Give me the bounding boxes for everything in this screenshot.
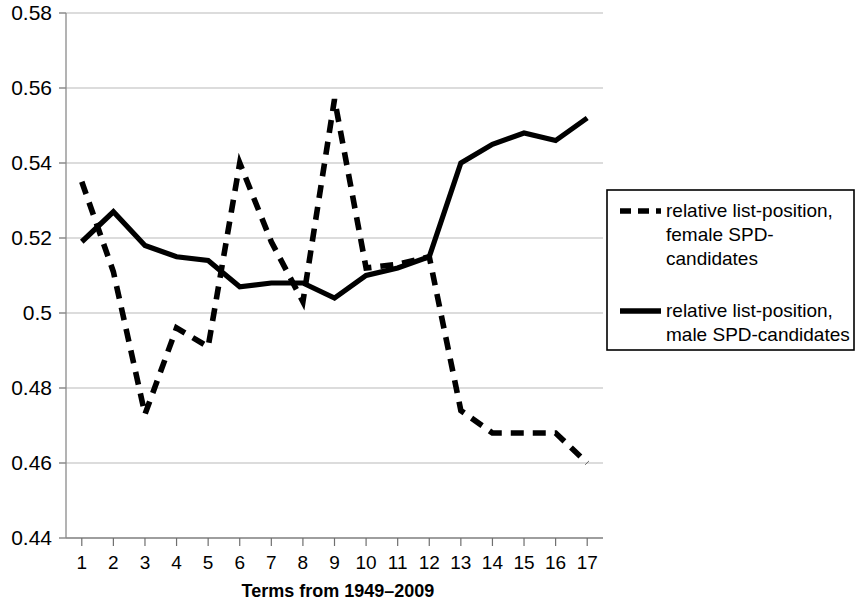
y-axis-tick-label: 0.52 (11, 226, 52, 249)
tickmarks-group (59, 13, 587, 546)
x-axis-tick-label: 6 (234, 552, 245, 573)
legend-label-female-line2: female SPD- (666, 224, 774, 245)
y-axis-tick-label: 0.5 (23, 301, 52, 324)
x-axis-tick-label: 12 (419, 552, 440, 573)
x-axis-tick-label: 2 (108, 552, 119, 573)
y-axis-tick-label: 0.54 (11, 151, 52, 174)
x-axis-tick-label: 7 (266, 552, 277, 573)
x-axis-tick-label: 11 (388, 552, 408, 573)
x-axis-tick-label: 14 (482, 552, 504, 573)
y-axis-tick-label: 0.58 (11, 1, 52, 24)
series-line-female-spd-candidates (82, 99, 587, 463)
chart-container: 0.580.560.540.520.50.480.460.44 12345678… (0, 0, 855, 607)
x-axis-tick-label: 4 (171, 552, 182, 573)
legend: relative list-position, female SPD- cand… (607, 190, 854, 350)
x-axis-tick-label: 16 (545, 552, 566, 573)
legend-label-male-line2: male SPD-candidates (666, 324, 850, 345)
x-axis-tick-label: 1 (77, 552, 88, 573)
x-axis-tick-label: 9 (329, 552, 340, 573)
x-axis-tick-label: 8 (298, 552, 309, 573)
line-chart: 0.580.560.540.520.50.480.460.44 12345678… (0, 0, 855, 607)
y-axis-tick-labels: 0.580.560.540.520.50.480.460.44 (11, 1, 52, 549)
x-axis-tick-labels: 1234567891011121314151617 (77, 552, 598, 573)
x-axis-tick-label: 17 (577, 552, 598, 573)
y-axis-tick-label: 0.46 (11, 451, 52, 474)
x-axis-tick-label: 13 (450, 552, 471, 573)
x-axis-tick-label: 3 (140, 552, 151, 573)
legend-label-male-line1: relative list-position, (666, 300, 833, 321)
gridlines-group (66, 13, 603, 538)
x-axis-title: Terms from 1949–2009 (242, 581, 435, 601)
legend-label-female-line3: candidates (666, 248, 758, 269)
x-axis-tick-label: 5 (203, 552, 214, 573)
y-axis-tick-label: 0.44 (11, 526, 52, 549)
legend-label-female-line1: relative list-position, (666, 200, 833, 221)
x-axis-tick-label: 10 (356, 552, 377, 573)
y-axis-tick-label: 0.56 (11, 76, 52, 99)
x-axis-tick-label: 15 (513, 552, 534, 573)
series-line-male-spd-candidates (82, 118, 587, 298)
y-axis-tick-label: 0.48 (11, 376, 52, 399)
